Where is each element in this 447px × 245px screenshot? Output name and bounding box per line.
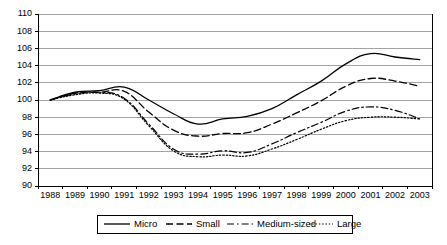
y-tick-label-106: 106 (17, 43, 32, 53)
x-tick-label-2003: 2003 (410, 190, 430, 200)
x-tick-label-1999: 1999 (311, 190, 331, 200)
legend-label-medium-sized: Medium-sized (257, 218, 316, 229)
x-tick-label-1993: 1993 (163, 190, 183, 200)
y-tick-label-110: 110 (18, 8, 32, 18)
y-tick-label-96: 96 (22, 129, 32, 139)
series-line-large (50, 93, 419, 157)
x-tick-label-2000: 2000 (336, 190, 356, 200)
x-tick-label-2001: 2001 (360, 190, 380, 200)
y-tick-label-94: 94 (22, 146, 32, 156)
legend-label-large: Large (337, 218, 361, 229)
x-tick-label-2002: 2002 (385, 190, 405, 200)
y-tick-label-104: 104 (17, 60, 32, 70)
x-tick-label-1998: 1998 (287, 190, 307, 200)
x-tick-label-1989: 1989 (65, 190, 85, 200)
chart-legend: MicroSmallMedium-sizedLarge (97, 215, 361, 233)
y-tick-label-108: 108 (17, 26, 32, 36)
legend-label-micro: Micro (134, 218, 157, 229)
x-axis-labels: 1988198919901991199219931994199519961997… (40, 190, 429, 200)
y-tick-label-98: 98 (22, 112, 32, 122)
x-tick-label-1992: 1992 (139, 190, 159, 200)
series-line-micro (50, 53, 419, 124)
x-tick-label-1994: 1994 (188, 190, 208, 200)
chart-canvas: 9092949698100102104106108110 19881989199… (0, 0, 447, 245)
line-chart: 9092949698100102104106108110 19881989199… (0, 0, 447, 245)
x-tick-label-1996: 1996 (237, 190, 257, 200)
x-tick-label-1995: 1995 (213, 190, 233, 200)
x-tick-label-1990: 1990 (90, 190, 110, 200)
y-tick-label-90: 90 (22, 180, 32, 190)
series-line-small (50, 78, 419, 136)
y-tick-label-102: 102 (17, 77, 32, 87)
x-tick-label-1988: 1988 (40, 190, 60, 200)
series-line-medium-sized (50, 92, 419, 154)
y-axis-labels: 9092949698100102104106108110 (17, 8, 32, 190)
x-tick-label-1997: 1997 (262, 190, 282, 200)
x-tick-label-1991: 1991 (114, 190, 134, 200)
legend-label-small: Small (196, 218, 220, 229)
y-tick-label-100: 100 (17, 94, 32, 104)
data-series-group (50, 53, 419, 157)
y-tick-label-92: 92 (22, 163, 32, 173)
